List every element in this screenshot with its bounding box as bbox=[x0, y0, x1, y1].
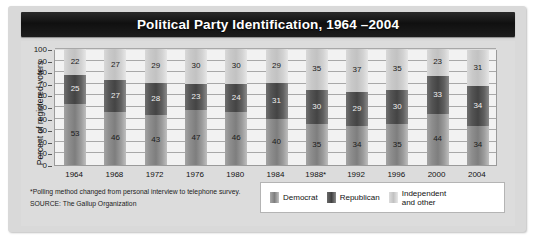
bar-segment: 34 bbox=[467, 126, 489, 165]
bar-segment: 44 bbox=[427, 114, 449, 165]
plot-area: 2225532727462928433023473024462931403530… bbox=[54, 50, 497, 166]
bar-stack: 233344 bbox=[427, 49, 449, 165]
bar-value-label: 34 bbox=[473, 141, 482, 149]
y-tick-label: 40 bbox=[25, 116, 47, 124]
y-tick-label: 70 bbox=[25, 81, 47, 89]
y-tick-label: 90 bbox=[25, 58, 47, 66]
bar-value-label: 31 bbox=[272, 97, 281, 105]
bar-segment: 28 bbox=[145, 83, 167, 115]
y-tick-label: 80 bbox=[25, 69, 47, 77]
bar-value-label: 47 bbox=[192, 134, 201, 142]
bar-stack: 302347 bbox=[185, 49, 207, 165]
x-tick-label: 2000 bbox=[417, 170, 457, 179]
bar-segment: 23 bbox=[185, 84, 207, 111]
bar-stack: 313434 bbox=[467, 50, 489, 165]
bar-value-label: 35 bbox=[312, 65, 321, 73]
bar-value-label: 44 bbox=[433, 135, 442, 143]
bar-segment: 25 bbox=[64, 75, 86, 104]
bar-value-label: 29 bbox=[353, 105, 362, 113]
y-tick-label: 60 bbox=[25, 92, 47, 100]
bar-segment: 27 bbox=[104, 80, 126, 111]
bar-value-label: 28 bbox=[151, 95, 160, 103]
y-tick-label: 30 bbox=[25, 127, 47, 135]
bar-segment: 30 bbox=[386, 90, 408, 125]
bar-segment: 29 bbox=[266, 49, 288, 83]
bar-segment: 23 bbox=[427, 49, 449, 76]
y-tick-mark bbox=[48, 131, 52, 132]
y-tick-mark bbox=[48, 120, 52, 121]
bar-segment: 27 bbox=[104, 49, 126, 80]
x-tick-label: 1976 bbox=[175, 170, 215, 179]
bar-value-label: 30 bbox=[232, 62, 241, 70]
bar-stack: 292843 bbox=[145, 49, 167, 165]
x-tick-label: 1996 bbox=[376, 170, 416, 179]
bar-segment: 22 bbox=[64, 49, 86, 75]
bar-stack: 293140 bbox=[266, 49, 288, 165]
y-tick-mark bbox=[48, 154, 52, 155]
bar-segment: 53 bbox=[64, 104, 86, 165]
bar-value-label: 30 bbox=[192, 62, 201, 70]
bar-stack: 302446 bbox=[225, 49, 247, 165]
bar-segment: 30 bbox=[185, 49, 207, 84]
bar-value-label: 35 bbox=[393, 141, 402, 149]
bar-stack: 272746 bbox=[104, 49, 126, 165]
legend-swatch-independent bbox=[389, 192, 398, 203]
bar-segment: 34 bbox=[346, 126, 368, 165]
bar-value-label: 46 bbox=[111, 134, 120, 142]
bar-value-label: 29 bbox=[151, 62, 160, 70]
bar-segment: 40 bbox=[266, 119, 288, 165]
bar-segment: 35 bbox=[386, 124, 408, 165]
y-tick-mark bbox=[48, 62, 52, 63]
x-tick-label: 1988* bbox=[296, 170, 336, 179]
bar-value-label: 23 bbox=[192, 93, 201, 101]
bars-group: 2225532727462928433023473024462931403530… bbox=[55, 50, 496, 165]
bar-segment: 30 bbox=[225, 49, 247, 84]
title-bar: Political Party Identification, 1964 –20… bbox=[21, 12, 515, 37]
bar-segment: 31 bbox=[467, 50, 489, 86]
bar-segment: 33 bbox=[427, 76, 449, 114]
legend-swatch-democrat bbox=[270, 192, 279, 203]
bar-segment: 35 bbox=[306, 49, 328, 90]
bar-stack: 222553 bbox=[64, 49, 86, 165]
bar-value-label: 22 bbox=[71, 58, 80, 66]
y-tick-mark bbox=[48, 166, 52, 167]
x-tick-label: 1968 bbox=[94, 170, 134, 179]
bar-value-label: 35 bbox=[393, 65, 402, 73]
legend-item: Independent and other bbox=[389, 189, 458, 207]
y-tick-mark bbox=[48, 85, 52, 86]
page-title: Political Party Identification, 1964 –20… bbox=[21, 12, 515, 37]
y-tick-mark bbox=[48, 96, 52, 97]
bar-segment: 30 bbox=[306, 90, 328, 125]
x-tick-label: 1980 bbox=[215, 170, 255, 179]
legend-swatch-republican bbox=[327, 192, 336, 203]
x-tick-label: 1964 bbox=[54, 170, 94, 179]
y-axis: Percent of registered voters 01020304050… bbox=[21, 50, 54, 167]
legend-item: Democrat bbox=[270, 192, 318, 203]
x-tick-label: 2004 bbox=[457, 170, 497, 179]
bar-stack: 353035 bbox=[306, 49, 328, 165]
chart-panel: Percent of registered voters 01020304050… bbox=[21, 41, 515, 226]
bar-value-label: 29 bbox=[272, 62, 281, 70]
source-note: SOURCE: The Gallup Organization bbox=[30, 200, 136, 207]
legend-label: Democrat bbox=[283, 193, 318, 202]
bar-segment: 29 bbox=[346, 92, 368, 126]
chart-figure: Political Party Identification, 1964 –20… bbox=[0, 0, 536, 240]
bar-segment: 35 bbox=[386, 49, 408, 90]
bar-value-label: 43 bbox=[151, 136, 160, 144]
bar-value-label: 40 bbox=[272, 138, 281, 146]
y-tick-label: 50 bbox=[25, 104, 47, 112]
bar-value-label: 27 bbox=[111, 92, 120, 100]
x-tick-label: 1992 bbox=[336, 170, 376, 179]
bar-value-label: 34 bbox=[353, 141, 362, 149]
x-tick-label: 1972 bbox=[135, 170, 175, 179]
bar-segment: 43 bbox=[145, 115, 167, 165]
legend-item: Republican bbox=[327, 192, 380, 203]
bar-segment: 46 bbox=[104, 112, 126, 165]
bar-value-label: 30 bbox=[393, 103, 402, 111]
bar-value-label: 53 bbox=[71, 130, 80, 138]
y-tick-mark bbox=[48, 143, 52, 144]
bar-value-label: 35 bbox=[312, 141, 321, 149]
polling-note: *Polling method changed from personal in… bbox=[30, 188, 240, 195]
bar-segment: 24 bbox=[225, 84, 247, 112]
x-tick-label: 1984 bbox=[256, 170, 296, 179]
